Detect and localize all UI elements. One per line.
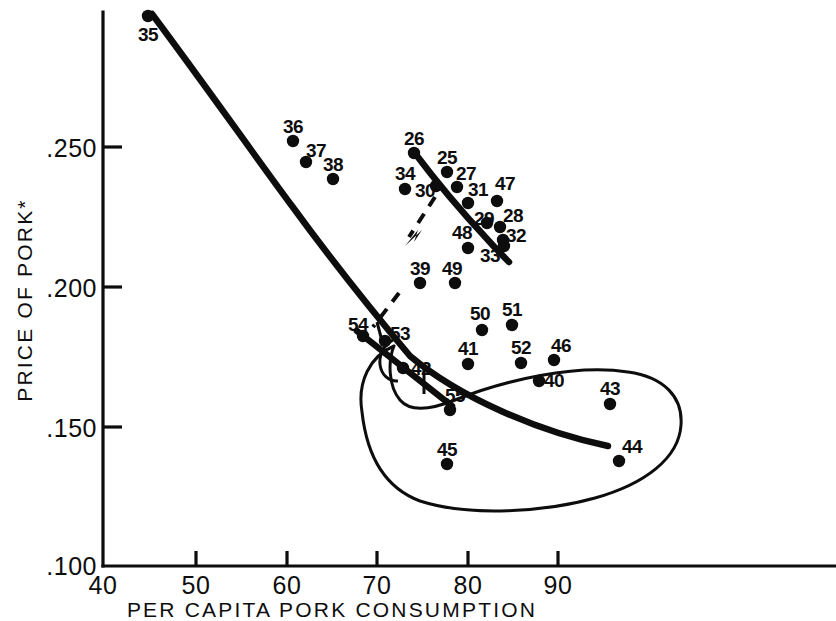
data-point-label: 38 (323, 154, 343, 175)
x-tick-label-50: 50 (182, 571, 211, 599)
data-point-label: 41 (458, 338, 479, 359)
data-point[interactable] (476, 324, 488, 336)
data-point-label: 39 (410, 258, 430, 279)
y-tick-label-250: .250 (46, 134, 97, 162)
x-tick-label-60: 60 (273, 571, 302, 599)
x-tick-label-90: 90 (544, 571, 573, 599)
data-point-label: 26 (404, 128, 424, 149)
shift-link-lower (373, 293, 399, 327)
data-point[interactable] (397, 362, 409, 374)
data-point[interactable] (399, 183, 411, 195)
x-tick-label-70: 70 (363, 571, 392, 599)
data-point-label: 40 (544, 370, 564, 391)
y-tick-labels: .250 .200 .150 .100 (46, 134, 97, 580)
data-point[interactable] (515, 357, 527, 369)
y-tick-label-200: .200 (46, 274, 97, 302)
data-point-label: 33 (480, 245, 500, 266)
shift-arrow-upper (409, 197, 435, 237)
data-point-label: 50 (470, 303, 490, 324)
data-point-label: 35 (138, 24, 159, 45)
data-point[interactable] (491, 195, 503, 207)
y-tick-marks (103, 147, 122, 427)
data-point-label: 43 (600, 378, 620, 399)
chart-canvas: .250 .200 .150 .100 40 50 60 70 80 90 PE… (0, 0, 836, 621)
x-tick-marks (196, 551, 558, 566)
data-point-label: 30 (415, 180, 435, 201)
x-tick-label-40: 40 (89, 571, 118, 599)
data-point-label: 31 (468, 179, 489, 200)
data-point[interactable] (604, 398, 616, 410)
x-tick-labels: 40 50 60 70 80 90 (89, 571, 573, 599)
data-point[interactable] (462, 358, 474, 370)
x-tick-label-80: 80 (454, 571, 483, 599)
x-axis-title: PER CAPITA PORK CONSUMPTION (127, 598, 537, 621)
data-point-label: 34 (395, 163, 416, 184)
data-points-group: 35 36 37 38 26 25 34 30 27 (138, 10, 643, 470)
data-point-label: 53 (390, 323, 410, 344)
data-point-label: 45 (437, 439, 458, 460)
data-point-label: 29 (474, 208, 494, 229)
data-point[interactable] (506, 319, 518, 331)
data-point-label: 44 (622, 436, 643, 457)
data-point-label: 51 (502, 299, 523, 320)
data-point-label: 52 (511, 337, 531, 358)
data-point[interactable] (462, 242, 474, 254)
y-tick-label-150: .150 (46, 414, 97, 442)
data-point-label: 46 (551, 335, 571, 356)
data-point-label: 54 (348, 314, 369, 335)
y-axis-title: PRICE OF PORK* (13, 198, 36, 402)
data-point-label: 42 (411, 358, 431, 379)
data-point-label: 36 (283, 116, 303, 137)
data-point[interactable] (142, 10, 154, 22)
data-point-label: 55 (445, 385, 466, 406)
data-point-label: 49 (442, 258, 462, 279)
data-point-label: 28 (503, 205, 523, 226)
data-point-label: 47 (495, 173, 515, 194)
pork-price-quantity-scatter-figure: .250 .200 .150 .100 40 50 60 70 80 90 PE… (0, 0, 836, 621)
data-point-label: 25 (437, 147, 458, 168)
data-point-label: 48 (452, 222, 472, 243)
